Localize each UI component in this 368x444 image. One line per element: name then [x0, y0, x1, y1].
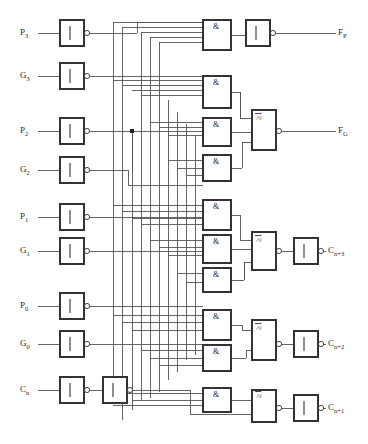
and-gate-symbol: & [213, 157, 219, 166]
and-gate-symbol: & [213, 78, 219, 87]
or-gate-symbol: ≥1 [254, 322, 263, 330]
output-label-cn2: Cn+2 [328, 338, 344, 350]
and-gate-symbol: & [213, 312, 219, 321]
input-label-p3: P3 [20, 27, 28, 39]
output-label-fg: FG [338, 125, 348, 137]
and-gate-symbol: & [213, 347, 219, 356]
circuit-svg [0, 0, 368, 444]
and-gate-symbol: & [213, 270, 219, 279]
input-label-g3: G3 [20, 70, 30, 82]
or-gate-symbol: ≥1 [254, 390, 263, 398]
input-label-p0: P0 [20, 300, 28, 312]
input-label-g2: G2 [20, 164, 30, 176]
input-label-g0: G0 [20, 338, 30, 350]
input-label-p1: P1 [20, 211, 28, 223]
and-gate-symbol: & [213, 237, 219, 246]
output-label-cn3: Cn+3 [328, 245, 344, 257]
input-label-p2: P2 [20, 125, 28, 137]
or-gate-symbol: ≥1 [254, 112, 263, 120]
output-label-cn1: Cn+1 [328, 402, 344, 414]
and-gate-symbol: & [213, 120, 219, 129]
or-gate-symbol: ≥1 [254, 234, 263, 242]
and-gate-symbol: & [213, 22, 219, 31]
output-label-fp: FP [338, 27, 347, 39]
input-label-g1: G1 [20, 245, 30, 257]
and-gate-symbol: & [213, 202, 219, 211]
circuit-diagram: P3 G3 P2 G2 P1 G1 P0 G0 Cn FP FG Cn+3 Cn… [0, 0, 368, 444]
input-label-cn: Cn [20, 384, 29, 396]
and-gate-symbol: & [213, 390, 219, 399]
